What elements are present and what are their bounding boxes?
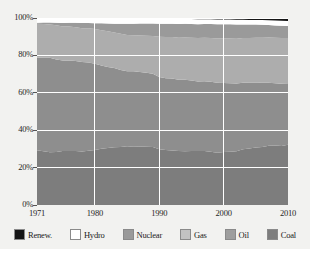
- y-tick-label-40: 40%: [0, 124, 33, 134]
- x-tick-label-1971: 1971: [17, 208, 57, 218]
- legend-item-gas[interactable]: Gas: [180, 229, 207, 240]
- legend-swatch-icon: [267, 229, 278, 240]
- x-tick-label-1990: 1990: [139, 208, 179, 218]
- y-tick-label-60: 60%: [0, 87, 33, 97]
- chart-figure: 0%20%40%60%80%100% 19711980199020002010 …: [0, 0, 310, 256]
- stacked-area-series: [37, 18, 288, 205]
- legend-item-nuclear[interactable]: Nuclear: [123, 229, 163, 240]
- chart-legend: Renew.HydroNuclearGasOilCoal: [14, 226, 296, 243]
- legend-label: Renew.: [28, 230, 52, 240]
- legend-swatch-icon: [70, 229, 81, 240]
- legend-item-hydro[interactable]: Hydro: [70, 229, 105, 240]
- legend-swatch-icon: [123, 229, 134, 240]
- legend-label: Gas: [194, 230, 207, 240]
- legend-item-oil[interactable]: Oil: [225, 229, 249, 240]
- legend-swatch-icon: [180, 229, 191, 240]
- legend-item-renew[interactable]: Renew.: [14, 229, 52, 240]
- plot-area: [37, 18, 288, 205]
- x-tick-label-2000: 2000: [204, 208, 244, 218]
- figure-bottom-margin: [0, 249, 310, 256]
- legend-swatch-icon: [14, 229, 25, 240]
- legend-label: Nuclear: [137, 230, 163, 240]
- y-tick-label-20: 20%: [0, 162, 33, 172]
- x-tick-label-2010: 2010: [268, 208, 308, 218]
- legend-item-coal[interactable]: Coal: [267, 229, 296, 240]
- legend-label: Coal: [281, 230, 296, 240]
- legend-swatch-icon: [225, 229, 236, 240]
- x-tick-label-1980: 1980: [75, 208, 115, 218]
- area-band-coal: [37, 145, 288, 205]
- y-tick-label-100: 100%: [0, 12, 33, 22]
- legend-label: Hydro: [84, 230, 105, 240]
- y-tick-label-80: 80%: [0, 49, 33, 59]
- legend-label: Oil: [239, 230, 249, 240]
